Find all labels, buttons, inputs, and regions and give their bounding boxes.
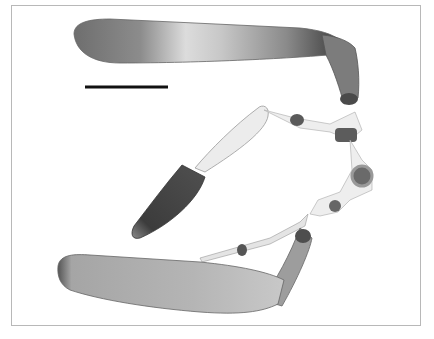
dark-distal-segment	[132, 165, 205, 238]
lower-blade-segment	[58, 255, 284, 314]
upper-elbow-segment	[322, 35, 359, 104]
translucent-joint-segments	[195, 106, 268, 172]
upper-blade-segment	[74, 19, 340, 63]
micrograph	[0, 0, 434, 339]
